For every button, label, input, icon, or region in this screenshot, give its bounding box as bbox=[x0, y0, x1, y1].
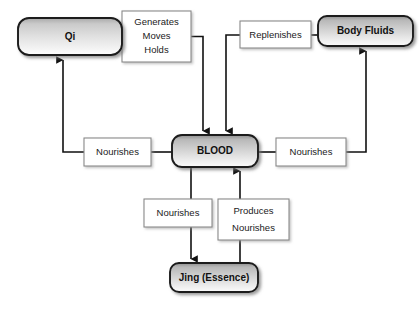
edge-label-line: Holds bbox=[144, 44, 169, 55]
relationship-diagram-svg: Generates Moves Holds Replenishes Nouris… bbox=[0, 0, 419, 313]
node-qi-label: Qi bbox=[65, 31, 76, 42]
edge-label-line: Generates bbox=[134, 16, 179, 27]
edge-label-generates-moves-holds: Generates Moves Holds bbox=[122, 11, 191, 62]
edge-label-replenishes: Replenishes bbox=[240, 21, 311, 48]
node-jing-label: Jing (Essence) bbox=[179, 272, 250, 283]
edge-label-line: Produces bbox=[233, 205, 273, 216]
node-body-fluids-label: Body Fluids bbox=[337, 25, 395, 36]
edge-blood-to-bodyfluids bbox=[258, 51, 366, 152]
edge-label-line: Nourishes bbox=[290, 146, 333, 157]
node-qi[interactable]: Qi bbox=[18, 18, 122, 55]
edge-label-line: Nourishes bbox=[157, 207, 200, 218]
edge-label-nourishes-right: Nourishes bbox=[276, 138, 346, 166]
edge-label-line: Moves bbox=[143, 30, 171, 41]
node-blood[interactable]: BLOOD bbox=[172, 135, 258, 167]
edge-label-line: Replenishes bbox=[249, 29, 302, 40]
edge-label-nourishes-bottom: Nourishes bbox=[144, 199, 212, 227]
edge-bodyfluids-to-blood bbox=[226, 35, 318, 131]
edge-label-line: Nourishes bbox=[96, 146, 139, 157]
node-body-fluids[interactable]: Body Fluids bbox=[318, 16, 413, 46]
node-jing[interactable]: Jing (Essence) bbox=[170, 263, 258, 292]
node-blood-label: BLOOD bbox=[197, 145, 233, 156]
diagram-canvas: Generates Moves Holds Replenishes Nouris… bbox=[0, 0, 419, 313]
edge-label-line: Nourishes bbox=[232, 222, 275, 233]
edge-label-nourishes-left: Nourishes bbox=[84, 138, 151, 166]
edge-label-produces-nourishes: Produces Nourishes bbox=[218, 199, 289, 240]
